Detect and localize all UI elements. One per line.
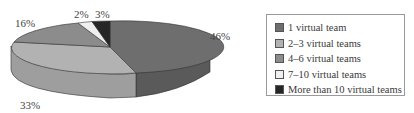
data-label-2-3-virtual-teams: 33% <box>20 99 40 111</box>
chart-legend: 1 virtual team 2–3 virtual teams 4–6 vir… <box>266 14 405 96</box>
legend-label: More than 10 virtual teams <box>288 84 402 95</box>
data-label-more-than-10-virtual-teams: 3% <box>95 8 110 20</box>
legend-item-2-3-virtual-teams: 2–3 virtual teams <box>275 36 404 52</box>
legend-swatch <box>275 39 284 48</box>
legend-swatch <box>275 85 284 94</box>
data-label-4-6-virtual-teams: 16% <box>15 17 35 29</box>
pie-chart <box>0 0 260 113</box>
data-label-1-virtual-team: 46% <box>210 30 230 42</box>
legend-item-7-10-virtual-teams: 7–10 virtual teams <box>275 67 404 83</box>
legend-label: 2–3 virtual teams <box>288 38 361 49</box>
legend-label: 1 virtual team <box>288 22 346 33</box>
data-label-7-10-virtual-teams: 2% <box>74 8 89 20</box>
legend-swatch <box>275 23 284 32</box>
legend-label: 7–10 virtual teams <box>288 69 366 80</box>
legend-label: 4–6 virtual teams <box>288 53 361 64</box>
legend-item-4-6-virtual-teams: 4–6 virtual teams <box>275 51 404 67</box>
legend-item-more-than-10-virtual-teams: More than 10 virtual teams <box>275 82 404 98</box>
legend-swatch <box>275 70 284 79</box>
legend-item-1-virtual-team: 1 virtual team <box>275 20 404 36</box>
legend-swatch <box>275 54 284 63</box>
